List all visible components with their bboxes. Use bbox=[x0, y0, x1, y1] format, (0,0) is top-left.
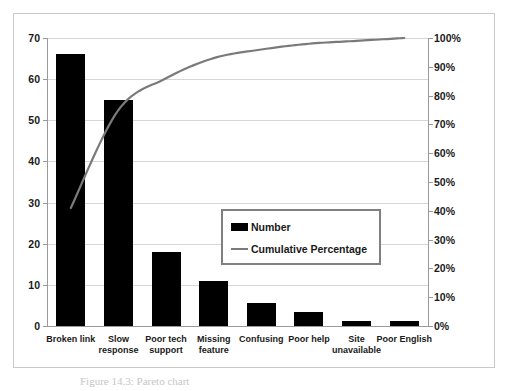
x-axis-category-label-line: feature bbox=[181, 345, 247, 356]
y-axis-right-tick-label: 20% bbox=[434, 262, 455, 274]
y-axis-right-tick-label: 40% bbox=[434, 205, 455, 217]
y-axis-right-tick-label: 10% bbox=[434, 291, 455, 303]
legend-line-swatch-icon bbox=[231, 248, 248, 250]
y-axis-right-tick-label: 60% bbox=[434, 147, 455, 159]
figure-caption: Figure 14.3: Pareto chart bbox=[80, 375, 189, 389]
y-axis-right-tick bbox=[429, 211, 433, 212]
gridline bbox=[47, 79, 428, 80]
y-axis-right-labels: 0%10%20%30%40%50%60%70%80%90%100% bbox=[434, 0, 494, 391]
gridline bbox=[47, 326, 428, 327]
y-axis-right-tick bbox=[429, 124, 433, 125]
bar bbox=[294, 312, 323, 326]
y-axis-left-tick-label: 50 bbox=[0, 114, 40, 126]
y-axis-left-tick-label: 0 bbox=[0, 320, 40, 332]
y-axis-right-tick-label: 100% bbox=[434, 32, 461, 44]
y-axis-left-labels: 010203040506070 bbox=[0, 0, 40, 391]
y-axis-left-tick-label: 20 bbox=[0, 238, 40, 250]
chart-legend: Number Cumulative Percentage bbox=[221, 209, 381, 265]
x-axis-category-label: Poor English bbox=[371, 334, 437, 345]
y-axis-right-tick-label: 70% bbox=[434, 118, 455, 130]
y-axis-right-tick-label: 30% bbox=[434, 234, 455, 246]
bar bbox=[199, 281, 228, 326]
y-axis-line-left bbox=[47, 38, 48, 327]
bar bbox=[104, 100, 133, 326]
y-axis-right-tick bbox=[429, 182, 433, 183]
x-axis-category-label-line: unavailable bbox=[324, 345, 390, 356]
y-axis-right-tick bbox=[429, 326, 433, 327]
legend-item-number: Number bbox=[231, 220, 291, 234]
bar bbox=[390, 321, 419, 326]
y-axis-right-tick bbox=[429, 96, 433, 97]
y-axis-right-tick bbox=[429, 67, 433, 68]
y-axis-left-tick-label: 10 bbox=[0, 279, 40, 291]
y-axis-right-tick-label: 0% bbox=[434, 320, 449, 332]
y-axis-left-tick-label: 60 bbox=[0, 73, 40, 85]
y-axis-right-tick-label: 90% bbox=[434, 61, 455, 73]
y-axis-right-tick bbox=[429, 297, 433, 298]
legend-label-number: Number bbox=[251, 221, 291, 233]
bar bbox=[342, 321, 371, 326]
pareto-chart-figure: 010203040506070 0%10%20%30%40%50%60%70%8… bbox=[0, 0, 511, 391]
y-axis-right-tick-label: 80% bbox=[434, 90, 455, 102]
bar bbox=[152, 252, 181, 326]
gridline bbox=[47, 38, 428, 39]
bar bbox=[56, 54, 85, 326]
y-axis-right-tick bbox=[429, 240, 433, 241]
x-axis-category-label-line: Poor English bbox=[371, 334, 437, 345]
y-axis-left-tick-label: 70 bbox=[0, 32, 40, 44]
y-axis-right-tick-label: 50% bbox=[434, 176, 455, 188]
y-axis-left-tick-label: 30 bbox=[0, 197, 40, 209]
y-axis-right-tick bbox=[429, 38, 433, 39]
legend-bar-swatch-icon bbox=[231, 223, 248, 231]
y-axis-right-tick bbox=[429, 153, 433, 154]
y-axis-right-tick bbox=[429, 268, 433, 269]
legend-item-cumulative-percentage: Cumulative Percentage bbox=[231, 242, 367, 256]
legend-label-cumulative-percentage: Cumulative Percentage bbox=[251, 243, 367, 255]
y-axis-left-tick-label: 40 bbox=[0, 155, 40, 167]
bar bbox=[247, 303, 276, 326]
y-axis-line-right bbox=[428, 38, 429, 327]
